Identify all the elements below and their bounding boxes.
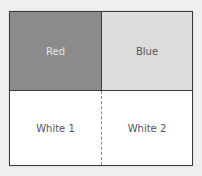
cell-red: Red	[10, 12, 102, 91]
cell-white-2: White 2	[102, 91, 192, 165]
cell-white-2-label: White 2	[128, 123, 167, 134]
cell-white-1: White 1	[10, 91, 102, 165]
cell-blue-label: Blue	[136, 46, 158, 57]
cell-blue: Blue	[102, 12, 192, 91]
cell-white-1-label: White 1	[36, 123, 75, 134]
cell-red-label: Red	[46, 46, 65, 57]
grid-diagram: Red Blue White 1 White 2	[9, 11, 193, 166]
